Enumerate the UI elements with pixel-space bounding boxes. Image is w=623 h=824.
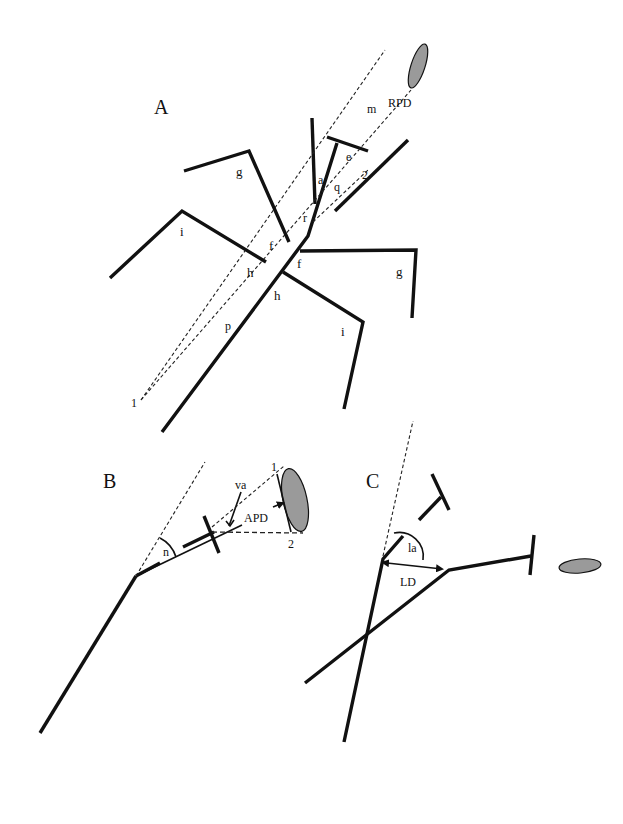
end-bar-c <box>530 535 534 575</box>
second-body-line-c <box>305 556 531 683</box>
label-va: va <box>235 478 247 492</box>
label-q: q <box>334 180 340 194</box>
label-f-left: f <box>269 238 274 253</box>
panel-b: B n va APD 1 2 <box>40 460 313 733</box>
label-ld: LD <box>400 575 416 589</box>
label-e: e <box>346 150 351 164</box>
label-la: la <box>408 541 417 555</box>
label-2-b: 2 <box>288 537 294 551</box>
body-line-b <box>40 576 136 733</box>
target-ellipse <box>404 42 432 90</box>
panel-c-label: C <box>366 470 379 492</box>
dashed-reference-c <box>383 421 413 556</box>
label-apd: APD <box>244 511 268 525</box>
axis-rpd-dashed <box>141 90 411 400</box>
antenna-a-line <box>312 118 315 204</box>
label-h-right: h <box>274 288 281 303</box>
label-n: n <box>163 545 169 559</box>
label-r: r <box>303 211 307 225</box>
head-crossbar <box>327 137 368 151</box>
label-i-left: i <box>180 224 184 239</box>
target-ellipse-c <box>558 557 601 575</box>
apd-arrow-b <box>273 503 283 507</box>
antenna-va-b <box>229 492 241 526</box>
label-g-right: g <box>396 264 403 279</box>
label-m: m <box>367 102 377 116</box>
label-h-left: h <box>247 265 254 280</box>
ld-double-arrow <box>387 563 442 569</box>
axis-1-dashed <box>141 50 385 400</box>
figure-canvas: A m RPD e a q 2 r g g i i f f h h <box>0 0 623 824</box>
leg-g-right <box>300 250 416 318</box>
label-p: p <box>225 319 231 333</box>
panel-c: C la LD <box>305 421 602 742</box>
leg-i-left <box>110 211 266 278</box>
panel-b-label: B <box>103 470 116 492</box>
label-1: 1 <box>131 396 137 410</box>
leg-i-right <box>283 272 363 409</box>
mandible-b <box>183 532 214 547</box>
label-2: 2 <box>362 168 368 182</box>
label-i-right: i <box>341 324 345 339</box>
panel-a: A m RPD e a q 2 r g g i i f f h h <box>110 42 432 432</box>
label-1-b: 1 <box>271 460 277 474</box>
body-line-c <box>344 536 403 742</box>
t-stem-c <box>419 497 441 520</box>
panel-a-label: A <box>154 96 169 118</box>
target-ellipse-b <box>277 466 314 534</box>
label-rpd: RPD <box>388 96 412 110</box>
label-f-right: f <box>297 256 302 271</box>
label-a: a <box>318 173 324 187</box>
label-g-left: g <box>236 164 243 179</box>
